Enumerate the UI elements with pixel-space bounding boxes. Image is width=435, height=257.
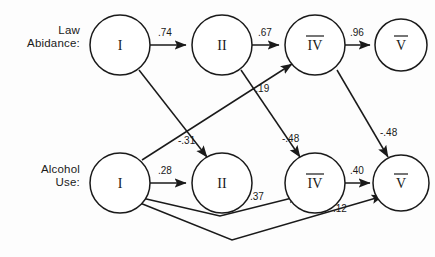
node-alc-2[interactable]: II xyxy=(192,153,252,213)
coef-alc1-alc4: .37 xyxy=(250,191,264,202)
coef-alc4-alc5: .40 xyxy=(350,165,364,176)
node-law-2-label: II xyxy=(217,38,227,53)
coef-law4-law5: .96 xyxy=(350,27,364,38)
node-alc-1[interactable]: I xyxy=(90,153,150,213)
node-law-4-label: IV xyxy=(308,38,323,53)
node-alc-1-label: I xyxy=(118,176,123,191)
edge-law4-alc5 xyxy=(337,70,388,157)
node-law-5-label: V xyxy=(396,38,406,53)
coef-alc1-law4: -.19 xyxy=(252,83,270,94)
coef-law1-law2: .74 xyxy=(158,27,172,38)
coef-law2-alc4: -.48 xyxy=(282,133,300,144)
node-alc-5-label: V xyxy=(396,176,406,191)
node-law-5[interactable]: V xyxy=(375,19,427,71)
node-alc-5[interactable]: V xyxy=(373,155,429,211)
coef-alc1-alc2: .28 xyxy=(158,165,172,176)
node-law-2[interactable]: II xyxy=(192,15,252,75)
node-law-1[interactable]: I xyxy=(90,15,150,75)
coef-law1-alc2: -.31 xyxy=(178,135,196,146)
coef-law4-alc5: -.48 xyxy=(380,127,398,138)
node-alc-4-label: IV xyxy=(308,176,323,191)
edge-law1-alc2 xyxy=(139,70,207,157)
coef-law2-law4: .67 xyxy=(258,27,272,38)
edge-layer xyxy=(139,45,388,240)
coef-alc1-alc5: .12 xyxy=(333,203,347,214)
node-alc-2-label: II xyxy=(217,176,227,191)
path-diagram: Law Abidance: Alcohol Use: xyxy=(0,0,435,257)
node-law-1-label: I xyxy=(118,38,123,53)
diagram-canvas: I II IV V I II xyxy=(0,0,435,257)
node-law-4[interactable]: IV xyxy=(285,15,345,75)
